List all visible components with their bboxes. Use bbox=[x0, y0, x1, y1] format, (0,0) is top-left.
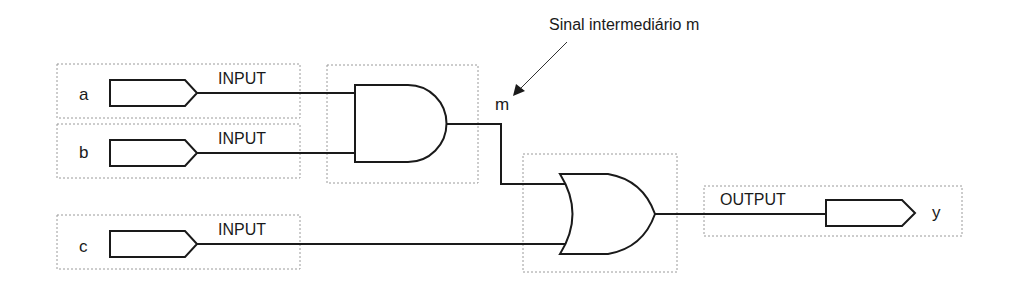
input-a-name: a bbox=[79, 86, 88, 103]
input-a-pin-icon bbox=[110, 80, 197, 106]
or-gate-icon bbox=[560, 174, 655, 254]
input-a-type-label: INPUT bbox=[218, 71, 266, 87]
input-b-type-label: INPUT bbox=[218, 131, 266, 147]
input-b-pin-icon bbox=[110, 140, 197, 166]
input-c-type-label: INPUT bbox=[218, 222, 266, 238]
annotation-arrow-icon bbox=[513, 42, 567, 96]
input-c-pin-icon bbox=[110, 231, 197, 257]
annotation-text: Sinal intermediário m bbox=[549, 17, 699, 33]
intermediate-signal-label: m bbox=[495, 96, 509, 113]
input-c-name: c bbox=[79, 238, 88, 255]
input-b-name: b bbox=[79, 144, 88, 161]
output-y-name: y bbox=[932, 204, 941, 221]
and-gate-icon bbox=[355, 85, 447, 162]
output-type-label: OUTPUT bbox=[720, 192, 786, 208]
circuit-diagram bbox=[0, 0, 1013, 286]
output-y-pin-icon bbox=[826, 200, 915, 226]
